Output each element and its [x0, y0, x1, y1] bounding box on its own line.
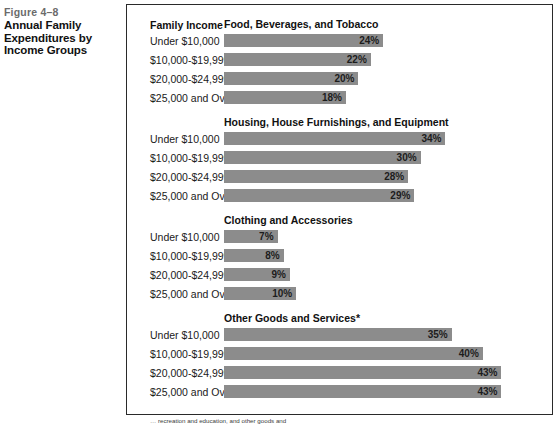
bar-row: Under $10,00024%	[127, 31, 552, 50]
bar-row: $20,000-$24,99943%	[127, 363, 552, 382]
bar: 43%	[224, 366, 501, 379]
bar-row: Under $10,0007%	[127, 227, 552, 246]
bar-row: $20,000-$24,99928%	[127, 167, 552, 186]
bar-row: $10,000-$19,99940%	[127, 344, 552, 363]
figure-title-line-1: Annual Family	[4, 19, 120, 32]
bar: 24%	[224, 34, 383, 47]
bar: 40%	[224, 347, 483, 360]
bar: 9%	[224, 268, 290, 281]
bar: 10%	[224, 287, 296, 300]
bar-value-label: 40%	[459, 348, 479, 359]
bar-value-label: 30%	[397, 152, 417, 163]
bar-row-label: Under $10,000	[127, 329, 224, 341]
bar-value-label: 35%	[428, 329, 448, 340]
bar-value-label: 8%	[265, 250, 279, 261]
bar-track: 9%	[224, 265, 552, 284]
bar-value-label: 24%	[359, 35, 379, 46]
bar-row-label: $25,000 and Over	[127, 288, 224, 300]
bar-row: Under $10,00035%	[127, 325, 552, 344]
panel-title: Food, Beverages, and Tobacco	[224, 18, 378, 31]
bar-value-label: 7%	[259, 231, 273, 242]
bar-value-label: 43%	[477, 386, 497, 397]
bar-row: $25,000 and Over43%	[127, 382, 552, 401]
bar-row-label: $20,000-$24,999	[127, 367, 224, 379]
bar-value-label: 29%	[390, 190, 410, 201]
bar-track: 24%	[224, 31, 552, 50]
bar-track: 40%	[224, 344, 552, 363]
bar-row: $25,000 and Over10%	[127, 284, 552, 303]
bar: 43%	[224, 385, 501, 398]
bar: 8%	[224, 249, 284, 262]
bar-track: 43%	[224, 363, 552, 382]
bar-row-label: $10,000-$19,999	[127, 152, 224, 164]
bar-value-label: 22%	[347, 54, 367, 65]
bar: 20%	[224, 72, 358, 85]
bar-value-label: 20%	[334, 73, 354, 84]
bar: 35%	[224, 328, 452, 341]
bar-value-label: 34%	[421, 133, 441, 144]
panel-title: Other Goods and Services*	[224, 312, 360, 325]
bar: 7%	[224, 230, 278, 243]
bar-row-label: $10,000-$19,999	[127, 250, 224, 262]
bar-row-label: Under $10,000	[127, 133, 224, 145]
chart-panel: Family IncomeFood, Beverages, and Tobacc…	[127, 12, 552, 107]
bar-row-label: $10,000-$19,999	[127, 54, 224, 66]
panel-header: Clothing and Accessories	[127, 208, 552, 227]
bar-row: $25,000 and Over29%	[127, 186, 552, 205]
bar-track: 30%	[224, 148, 552, 167]
panel-header: Housing, House Furnishings, and Equipmen…	[127, 110, 552, 129]
figure-title-line-3: Income Groups	[4, 44, 120, 57]
bar-value-label: 9%	[272, 269, 286, 280]
chart-panels-container: Family IncomeFood, Beverages, and Tobacc…	[127, 5, 552, 414]
figure-title-line-2: Expenditures by	[4, 32, 120, 45]
bar-row-label: $25,000 and Over	[127, 92, 224, 104]
bar-track: 29%	[224, 186, 552, 205]
bar-track: 8%	[224, 246, 552, 265]
chart-panel: Other Goods and Services*Under $10,00035…	[127, 306, 552, 401]
bar-value-label: 43%	[477, 367, 497, 378]
figure-title: Annual Family Expenditures by Income Gro…	[4, 19, 120, 57]
family-income-header: Family Income	[127, 19, 224, 31]
bar-row-label: $20,000-$24,999	[127, 171, 224, 183]
bar-track: 43%	[224, 382, 552, 401]
bar: 22%	[224, 53, 371, 66]
bar-track: 18%	[224, 88, 552, 107]
bar-row-label: $25,000 and Over	[127, 190, 224, 202]
bar-track: 28%	[224, 167, 552, 186]
bar-row-label: $20,000-$24,999	[127, 73, 224, 85]
bar-value-label: 18%	[322, 92, 342, 103]
bar-row: $10,000-$19,99922%	[127, 50, 552, 69]
bar-row: Under $10,00034%	[127, 129, 552, 148]
chart-frame: Family IncomeFood, Beverages, and Tobacc…	[126, 4, 553, 415]
bar-track: 7%	[224, 227, 552, 246]
bar: 29%	[224, 189, 414, 202]
bar-row: $25,000 and Over18%	[127, 88, 552, 107]
footnote: … recreation and education, and other go…	[150, 417, 559, 424]
bar-row-label: Under $10,000	[127, 35, 224, 47]
bar-track: 10%	[224, 284, 552, 303]
bar-row: $10,000-$19,99930%	[127, 148, 552, 167]
panel-header: Family IncomeFood, Beverages, and Tobacc…	[127, 12, 552, 31]
bar-row-label: $25,000 and Over	[127, 386, 224, 398]
bar: 18%	[224, 91, 346, 104]
bar-track: 35%	[224, 325, 552, 344]
bar-track: 22%	[224, 50, 552, 69]
bar: 28%	[224, 170, 408, 183]
bar-row-label: $20,000-$24,999	[127, 269, 224, 281]
panel-title: Housing, House Furnishings, and Equipmen…	[224, 116, 449, 129]
bar-row: $10,000-$19,9998%	[127, 246, 552, 265]
chart-panel: Clothing and AccessoriesUnder $10,0007%$…	[127, 208, 552, 303]
bar-value-label: 10%	[272, 288, 292, 299]
bar-row-label: $10,000-$19,999	[127, 348, 224, 360]
bar-row: $20,000-$24,99920%	[127, 69, 552, 88]
chart-panel: Housing, House Furnishings, and Equipmen…	[127, 110, 552, 205]
bar-value-label: 28%	[384, 171, 404, 182]
figure-number: Figure 4–8	[4, 6, 120, 18]
bar: 34%	[224, 132, 445, 145]
bar-row: $20,000-$24,9999%	[127, 265, 552, 284]
bar-track: 34%	[224, 129, 552, 148]
panel-title: Clothing and Accessories	[224, 214, 353, 227]
figure-caption: Figure 4–8 Annual Family Expenditures by…	[4, 6, 120, 57]
bar: 30%	[224, 151, 421, 164]
panel-header: Other Goods and Services*	[127, 306, 552, 325]
